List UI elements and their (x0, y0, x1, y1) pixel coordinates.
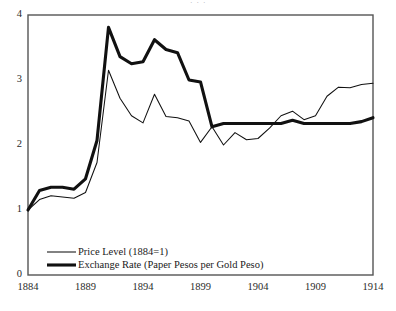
legend-label-price-level: Price Level (1884=1) (78, 246, 168, 257)
x-tick-1909: 1909 (296, 281, 336, 292)
chart-figure: · · · 01234 1884188918941899190419091914… (0, 0, 396, 311)
y-tick-3: 3 (6, 73, 22, 84)
x-tick-1889: 1889 (66, 281, 106, 292)
legend-label-exchange-rate: Exchange Rate (Paper Pesos per Gold Peso… (78, 259, 263, 270)
plot-frame (28, 15, 373, 275)
y-tick-2: 2 (6, 138, 22, 149)
legend-swatches (47, 252, 76, 265)
series-line-exchange-rate (28, 27, 373, 210)
y-tick-1: 1 (6, 203, 22, 214)
plot-frame-rect (28, 15, 373, 275)
x-tick-1894: 1894 (123, 281, 163, 292)
x-tick-1899: 1899 (181, 281, 221, 292)
y-tick-4: 4 (6, 8, 22, 19)
x-tick-1914: 1914 (353, 281, 393, 292)
x-tick-1904: 1904 (238, 281, 278, 292)
x-tick-1884: 1884 (8, 281, 48, 292)
y-tick-0: 0 (6, 268, 22, 279)
series-line-price-level (28, 70, 373, 210)
series-layer (28, 27, 373, 210)
